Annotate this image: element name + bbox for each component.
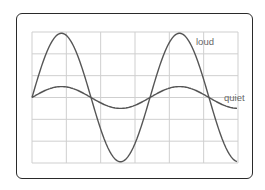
loud-label: loud (196, 37, 214, 47)
quiet-label: quiet (224, 93, 245, 103)
